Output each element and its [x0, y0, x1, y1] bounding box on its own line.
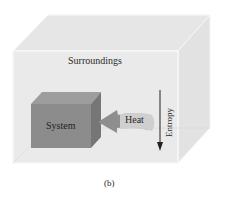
system-top-face: [31, 92, 101, 104]
system-label: System: [46, 120, 75, 131]
surroundings-label: Surroundings: [68, 55, 122, 66]
surroundings-box: [0, 0, 227, 197]
entropy-label: Entropy: [164, 108, 174, 137]
figure-caption: (b): [104, 178, 115, 188]
heat-label: Heat: [125, 114, 144, 125]
box-top-face: [13, 15, 210, 51]
